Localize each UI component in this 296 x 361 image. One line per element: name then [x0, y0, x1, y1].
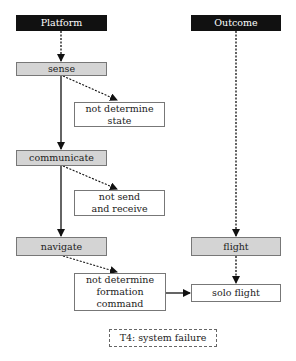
failure-not-send-receive: not send and receive	[74, 190, 165, 216]
failure-line: not send	[99, 191, 140, 203]
outcome-flight-label: flight	[223, 241, 248, 253]
failure-line: not determine	[85, 103, 153, 115]
outcome-header-label: Outcome	[214, 17, 257, 29]
platform-header-label: Platform	[41, 17, 83, 29]
step-sense: sense	[16, 62, 107, 76]
arrow-communicate-failure	[63, 166, 117, 189]
failure-line: not determine	[86, 274, 154, 286]
step-communicate: communicate	[16, 150, 107, 166]
diagram-canvas: Platform Outcome sense not determine sta…	[0, 0, 296, 361]
outcome-header: Outcome	[191, 15, 281, 31]
outcome-flight: flight	[191, 237, 281, 256]
platform-header: Platform	[16, 15, 107, 31]
arrow-navigate-failure	[63, 256, 117, 272]
arrow-sense-failure	[63, 76, 117, 100]
step-navigate-label: navigate	[41, 241, 82, 253]
outcome-solo-flight-label: solo flight	[212, 287, 260, 299]
failure-line: command	[97, 298, 144, 310]
failure-not-determine-state: not determine state	[74, 102, 165, 127]
step-navigate: navigate	[16, 237, 107, 256]
step-sense-label: sense	[48, 63, 75, 75]
step-communicate-label: communicate	[29, 152, 94, 164]
failure-line: state	[108, 115, 132, 127]
legend-box: T4: system failure	[109, 329, 217, 347]
failure-line: formation	[96, 286, 143, 298]
legend-label: T4: system failure	[120, 332, 207, 344]
failure-line: and receive	[91, 203, 147, 215]
failure-not-determine-formation: not determine formation command	[74, 273, 166, 311]
outcome-solo-flight: solo flight	[191, 284, 281, 302]
